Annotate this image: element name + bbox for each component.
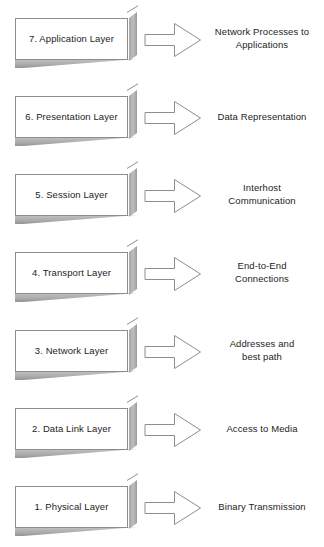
osi-model-diagram: 7. Application LayerNetwork Processes to… bbox=[0, 0, 324, 547]
layer-box-2[interactable]: 2. Data Link Layer bbox=[15, 402, 137, 458]
layer-description-text: InterhostCommunication bbox=[228, 182, 295, 208]
layer-description: Network Processes toApplications bbox=[200, 4, 324, 74]
box-bottom-bevel bbox=[15, 137, 137, 146]
right-arrow-outline-icon bbox=[144, 18, 202, 62]
box-bottom-bevel bbox=[15, 215, 137, 224]
layer-box-3[interactable]: 3. Network Layer bbox=[15, 324, 137, 380]
box-right-bevel bbox=[129, 90, 137, 139]
box-bottom-bevel bbox=[15, 449, 137, 458]
layer-box-7[interactable]: 7. Application Layer bbox=[15, 12, 137, 68]
box-front-face: 5. Session Layer bbox=[15, 174, 128, 216]
layer-description-text: Access to Media bbox=[226, 423, 297, 436]
layer-description: InterhostCommunication bbox=[200, 160, 324, 230]
layer-description-text: Data Representation bbox=[217, 111, 306, 124]
layer-name-label: 3. Network Layer bbox=[35, 346, 108, 356]
layer-description: Access to Media bbox=[200, 394, 324, 464]
layer-description: Data Representation bbox=[200, 82, 324, 152]
layer-description-text: Binary Transmission bbox=[218, 501, 305, 514]
layer-box-6[interactable]: 6. Presentation Layer bbox=[15, 90, 137, 146]
layer-description-text: End-to-EndConnections bbox=[235, 260, 289, 286]
box-right-bevel bbox=[129, 324, 137, 373]
osi-layer-row: 1. Physical LayerBinary Transmission bbox=[0, 472, 324, 542]
osi-layer-row: 2. Data Link LayerAccess to Media bbox=[0, 394, 324, 464]
osi-layer-row: 6. Presentation LayerData Representation bbox=[0, 82, 324, 152]
layer-description: Binary Transmission bbox=[200, 472, 324, 542]
layer-name-label: 1. Physical Layer bbox=[34, 502, 108, 512]
box-bottom-bevel bbox=[15, 293, 137, 302]
layer-box-5[interactable]: 5. Session Layer bbox=[15, 168, 137, 224]
layer-name-label: 6. Presentation Layer bbox=[25, 112, 117, 122]
layer-name-label: 7. Application Layer bbox=[29, 34, 114, 44]
layer-name-label: 2. Data Link Layer bbox=[32, 424, 111, 434]
box-right-bevel bbox=[129, 402, 137, 451]
box-right-bevel bbox=[129, 12, 137, 61]
box-front-face: 7. Application Layer bbox=[15, 18, 128, 60]
osi-layer-row: 4. Transport LayerEnd-to-EndConnections bbox=[0, 238, 324, 308]
osi-layer-row: 3. Network LayerAddresses andbest path bbox=[0, 316, 324, 386]
box-front-face: 6. Presentation Layer bbox=[15, 96, 128, 138]
right-arrow-outline-icon bbox=[144, 96, 202, 140]
osi-layer-row: 7. Application LayerNetwork Processes to… bbox=[0, 4, 324, 74]
right-arrow-outline-icon bbox=[144, 174, 202, 218]
layer-description-text: Network Processes toApplications bbox=[215, 26, 309, 52]
layer-name-label: 5. Session Layer bbox=[35, 190, 107, 200]
box-bottom-bevel bbox=[15, 527, 137, 536]
right-arrow-outline-icon bbox=[144, 408, 202, 452]
box-front-face: 2. Data Link Layer bbox=[15, 408, 128, 450]
layer-description: Addresses andbest path bbox=[200, 316, 324, 386]
right-arrow-outline-icon bbox=[144, 486, 202, 530]
right-arrow-outline-icon bbox=[144, 330, 202, 374]
box-right-bevel bbox=[129, 168, 137, 217]
layer-box-4[interactable]: 4. Transport Layer bbox=[15, 246, 137, 302]
layer-box-1[interactable]: 1. Physical Layer bbox=[15, 480, 137, 536]
right-arrow-outline-icon bbox=[144, 252, 202, 296]
osi-layer-row: 5. Session LayerInterhostCommunication bbox=[0, 160, 324, 230]
box-right-bevel bbox=[129, 246, 137, 295]
box-bottom-bevel bbox=[15, 371, 137, 380]
box-bottom-bevel bbox=[15, 59, 137, 68]
box-front-face: 4. Transport Layer bbox=[15, 252, 128, 294]
box-front-face: 1. Physical Layer bbox=[15, 486, 128, 528]
layer-name-label: 4. Transport Layer bbox=[32, 268, 111, 278]
box-right-bevel bbox=[129, 480, 137, 529]
box-front-face: 3. Network Layer bbox=[15, 330, 128, 372]
layer-description-text: Addresses andbest path bbox=[230, 338, 295, 364]
layer-description: End-to-EndConnections bbox=[200, 238, 324, 308]
